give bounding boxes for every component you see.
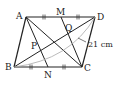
side-ab — [14, 17, 26, 67]
label-c: C — [84, 63, 91, 73]
measurement-leader — [78, 38, 86, 42]
label-q: Q — [65, 23, 72, 33]
label-d: D — [97, 12, 104, 22]
measurement-label: 21 cm — [88, 40, 113, 49]
parallelogram-diagram: A D B C M N P Q 21 cm — [0, 0, 126, 86]
label-m: M — [56, 7, 65, 17]
diagonal-bd — [14, 17, 95, 67]
label-n: N — [44, 70, 52, 80]
label-b: B — [5, 62, 12, 72]
label-p: P — [31, 41, 37, 51]
label-a: A — [15, 11, 23, 21]
